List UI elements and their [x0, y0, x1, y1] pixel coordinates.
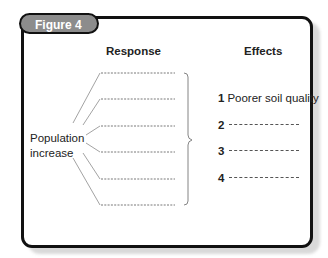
- effect-item-2: 2: [218, 119, 299, 131]
- effect-item-3: 3: [218, 145, 299, 157]
- effect-text: Poorer soil quality: [227, 92, 318, 104]
- effect-blank: [229, 177, 299, 178]
- effect-blank: [229, 124, 299, 125]
- response-blanks: [101, 73, 175, 205]
- effect-blank: [229, 150, 299, 151]
- connector-lines: [73, 73, 100, 205]
- curly-brace: [184, 73, 192, 205]
- effect-number: 3: [218, 145, 224, 157]
- effect-number: 1: [218, 92, 224, 104]
- effect-item-1: 1Poorer soil quality: [218, 92, 319, 104]
- effect-item-4: 4: [218, 172, 299, 184]
- effect-number: 4: [218, 172, 224, 184]
- effect-number: 2: [218, 119, 224, 131]
